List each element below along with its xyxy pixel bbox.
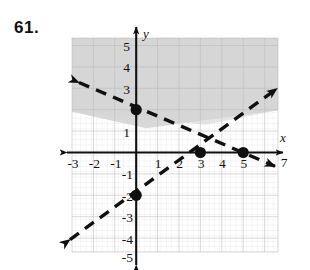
x-tick--1: -1 <box>110 156 121 171</box>
x-tick-5: 5 <box>240 156 247 171</box>
x-tick-4: 4 <box>219 156 226 171</box>
y-tick-5: 5 <box>123 39 130 54</box>
y-tick--1: -1 <box>122 167 133 182</box>
y-tick--5: -5 <box>122 250 133 265</box>
x-tick--3: -3 <box>67 156 78 171</box>
point-0-2 <box>131 104 142 115</box>
y-tick--4: -4 <box>122 232 133 247</box>
y-axis-label: y <box>141 26 149 41</box>
y-tick--2: -2 <box>122 189 133 204</box>
x-tick-2: 2 <box>176 156 183 171</box>
y-tick-3: 3 <box>123 82 130 97</box>
exercise-number: 61. <box>14 18 39 38</box>
y-tick-1: 1 <box>123 125 130 140</box>
y-tick--3: -3 <box>122 210 133 225</box>
x-tick-3: 3 <box>198 156 205 171</box>
y-tick-4: 4 <box>123 60 130 75</box>
coordinate-plane: x y -3 -2 -1 1 2 3 4 5 7 5 4 3 1 -1 -2 -… <box>0 0 310 270</box>
x-tick--2: -2 <box>89 156 100 171</box>
x-tick-7: 7 <box>281 155 288 170</box>
x-tick-1: 1 <box>155 156 162 171</box>
graph-figure: 61. <box>0 0 310 270</box>
x-axis-label: x <box>279 130 286 145</box>
solution-region-shading <box>72 38 278 128</box>
